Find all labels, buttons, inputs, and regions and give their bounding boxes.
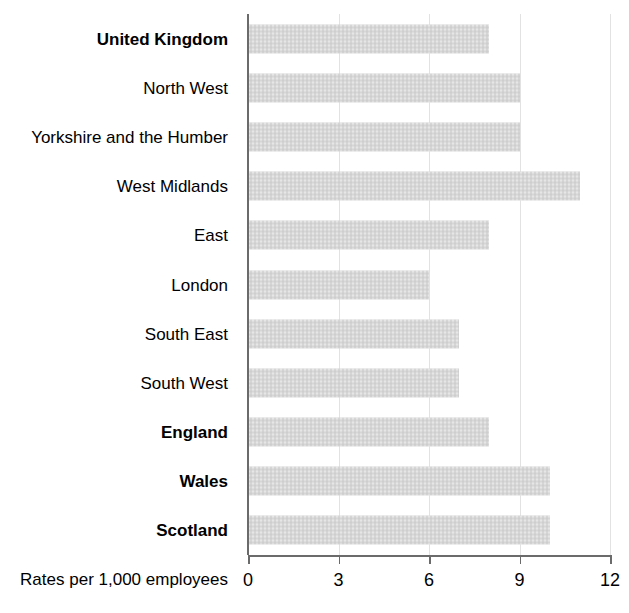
bar (248, 270, 429, 299)
bar-chart: United KingdomNorth WestYorkshire and th… (0, 0, 629, 613)
x-tick-mark (610, 555, 612, 564)
x-tick-label: 6 (424, 570, 434, 591)
category-label: England (161, 424, 228, 441)
category-label: United Kingdom (97, 30, 228, 47)
x-axis-title: Rates per 1,000 employees (0, 570, 228, 590)
category-label: West Midlands (117, 178, 228, 195)
plot-area (248, 14, 610, 555)
category-label: London (171, 276, 228, 293)
x-tick-mark (248, 555, 250, 564)
bar (248, 24, 489, 53)
x-tick-label: 9 (514, 570, 524, 591)
x-tick-label: 3 (333, 570, 343, 591)
y-axis-line (247, 14, 249, 555)
bar (248, 172, 580, 201)
bar (248, 221, 489, 250)
x-tick-label: 0 (243, 570, 253, 591)
category-axis: United KingdomNorth WestYorkshire and th… (0, 0, 242, 613)
x-tick-label: 12 (600, 570, 620, 591)
x-tick-mark (339, 555, 341, 564)
category-label: South East (145, 325, 228, 342)
category-label: Scotland (156, 522, 228, 539)
x-tick-mark (429, 555, 431, 564)
gridline (610, 14, 611, 555)
category-label: North West (143, 79, 228, 96)
bar (248, 122, 520, 151)
category-label: South West (140, 374, 228, 391)
bar (248, 467, 550, 496)
category-label: Yorkshire and the Humber (31, 128, 228, 145)
x-tick-mark (520, 555, 522, 564)
category-label: East (194, 227, 228, 244)
bar (248, 368, 459, 397)
category-label: Wales (179, 473, 228, 490)
bar (248, 73, 520, 102)
bar (248, 418, 489, 447)
bar (248, 516, 550, 545)
bar (248, 319, 459, 348)
